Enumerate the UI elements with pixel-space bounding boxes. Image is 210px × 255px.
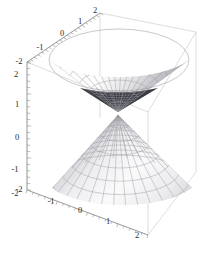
plot-canvas: -2 -1 0 1 2 [0, 0, 210, 255]
cone-surface-figure: -2 -1 0 1 2 [0, 0, 210, 255]
x-axis: -2 -1 0 1 2 [15, 5, 103, 66]
upper-cone-nappe [39, 27, 199, 112]
lower-cone-nappe [40, 115, 200, 221]
y-tick-label: 1 [106, 216, 110, 226]
z-axis: 2 1 0 -1 -2 [11, 62, 31, 198]
x-tick-label: -2 [15, 56, 22, 66]
x-tick-label: 2 [93, 5, 97, 15]
y-tick-label: -2 [15, 184, 22, 194]
y-tick-label: 0 [78, 205, 82, 215]
x-tick-label: 1 [78, 16, 82, 26]
z-axis-ticks [27, 62, 31, 190]
z-tick-label: 1 [15, 99, 19, 109]
y-tick-label: -1 [47, 196, 54, 206]
z-tick-label: 2 [14, 69, 18, 79]
z-tick-label: -1 [11, 164, 18, 174]
x-tick-label: -1 [36, 42, 43, 52]
z-tick-label: 0 [15, 132, 19, 142]
x-tick-label: 0 [60, 28, 64, 38]
y-tick-label: 2 [135, 230, 139, 240]
x-axis-ticks [27, 13, 103, 64]
